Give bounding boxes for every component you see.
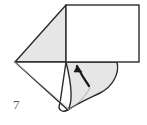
origami-step-figure: 7 [0, 0, 147, 125]
white-rectangle-panel [66, 5, 139, 62]
lower-right-shaded-flap [66, 62, 118, 110]
origami-diagram-svg [0, 0, 147, 125]
shaded-left-triangle [15, 5, 66, 62]
step-number-label: 7 [13, 98, 20, 111]
